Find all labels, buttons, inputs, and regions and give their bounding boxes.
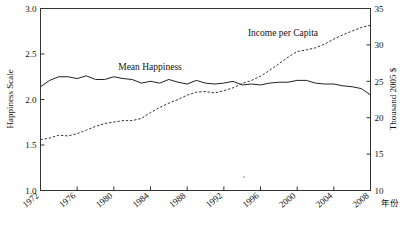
x-tick-label: 1996 — [241, 190, 262, 210]
series-group — [41, 25, 371, 139]
scan-artifact-speck — [243, 176, 245, 178]
x-tick-label: 1988 — [167, 190, 188, 210]
y-left-tick-label: 2.0 — [25, 95, 37, 105]
y-right-tick-label: 10 — [375, 186, 385, 196]
y-axis-right-title: Thousand 2005 $ — [388, 67, 398, 130]
y-right-tick-label: 25 — [375, 77, 385, 87]
y-right-tick-label: 15 — [375, 149, 385, 159]
y-right-tick-label: 35 — [375, 4, 385, 14]
dual-axis-line-chart: 1.01.52.02.53.0 101520253035 19721976198… — [0, 0, 405, 234]
x-tick-label: 2000 — [277, 190, 298, 210]
y-right-tick-label: 20 — [375, 113, 385, 123]
x-tick-label: 1976 — [57, 190, 78, 210]
annotation-income-per-capita: Income per Capita — [248, 28, 319, 38]
y-right-tick-label: 30 — [375, 40, 385, 50]
x-axis: 1972197619801984198819921996200020042008 — [21, 187, 372, 210]
x-tick-label: 1972 — [21, 190, 41, 209]
x-tick-label: 1980 — [94, 190, 115, 210]
chart-container: 1.01.52.02.53.0 101520253035 19721976198… — [0, 0, 405, 234]
x-axis-title: 年份 — [381, 198, 399, 208]
y-axis-left-title: Happiness Scale — [5, 69, 15, 128]
x-tick-label: 1992 — [204, 190, 224, 209]
y-axis-left: 1.01.52.02.53.0 — [25, 4, 44, 196]
y-left-tick-label: 1.5 — [25, 140, 37, 150]
y-left-tick-label: 2.5 — [25, 49, 37, 59]
y-axis-right: 101520253035 — [367, 4, 385, 196]
annotation-mean-happiness: Mean Happiness — [118, 62, 182, 72]
x-tick-label: 1984 — [131, 190, 152, 210]
x-tick-label: 2004 — [314, 190, 335, 210]
series-income-per-capita-line — [41, 25, 371, 139]
x-tick-label: 2008 — [351, 190, 372, 210]
y-left-tick-label: 3.0 — [25, 4, 37, 14]
plot-frame — [41, 9, 371, 191]
series-mean-happiness-line — [41, 76, 371, 95]
plot-area-border — [41, 9, 371, 191]
